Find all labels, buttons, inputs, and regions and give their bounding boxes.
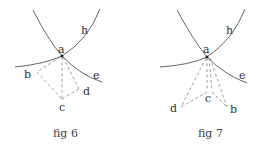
label-e: e (239, 69, 246, 82)
curve-h (33, 10, 102, 82)
label-b: b (230, 103, 237, 116)
label-a: a (58, 43, 65, 56)
dashed-b-c (37, 72, 62, 99)
figure-7: a h e d c b fig 7 (160, 9, 247, 140)
dashed-a-b (210, 58, 227, 107)
caption-fig-7: fig 7 (198, 127, 223, 140)
label-d: d (83, 85, 90, 98)
label-h: h (226, 24, 233, 37)
figure-6: a h e b c d fig 6 (15, 9, 102, 140)
label-c: c (59, 101, 65, 114)
dashed-a-d (181, 58, 206, 107)
label-e: e (93, 69, 100, 82)
label-d: d (170, 102, 177, 115)
label-a: a (203, 43, 210, 56)
curve-e (160, 9, 245, 67)
label-h: h (81, 24, 88, 37)
label-c: c (205, 92, 211, 105)
label-b: b (24, 68, 31, 81)
dashed-c-d (62, 89, 79, 99)
curve-h (177, 10, 247, 83)
diagram-canvas: a h e b c d fig 6 a h e d c b fig 7 (0, 0, 257, 146)
dashed-a-b (37, 57, 60, 72)
dashed-a-d (63, 57, 79, 89)
dashed-a-c2 (209, 58, 212, 91)
caption-fig-6: fig 6 (53, 127, 78, 140)
